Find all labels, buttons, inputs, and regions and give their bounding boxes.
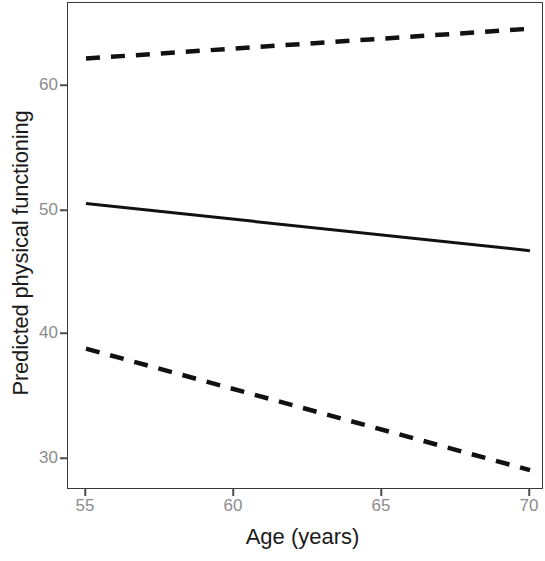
y-axis-tick-labels: 30 40 50 60 (8, 0, 58, 561)
y-tick-mark-50 (60, 209, 67, 211)
y-tick-label-50: 50 (16, 200, 58, 220)
x-tick-label-55: 55 (76, 496, 95, 516)
series-line-2 (86, 349, 530, 471)
y-tick-mark-40 (60, 332, 67, 334)
x-tick-label-65: 65 (372, 496, 391, 516)
y-tick-label-40: 40 (16, 323, 58, 343)
series-line-1 (86, 204, 530, 251)
chart-figure: Predicted physical functioning 30 40 50 … (0, 0, 545, 561)
y-tick-label-60: 60 (16, 75, 58, 95)
y-tick-label-30: 30 (16, 448, 58, 468)
x-tick-mark-70 (528, 489, 530, 496)
x-tick-label-70: 70 (520, 496, 539, 516)
series-line-0 (86, 29, 530, 59)
x-tick-label-60: 60 (224, 496, 243, 516)
y-tick-mark-60 (60, 84, 67, 86)
y-tick-mark-30 (60, 457, 67, 459)
x-tick-mark-65 (380, 489, 382, 496)
plot-lines-svg (68, 3, 543, 489)
plot-panel (67, 2, 543, 489)
series-group (86, 29, 530, 470)
x-tick-mark-55 (84, 489, 86, 496)
x-tick-mark-60 (232, 489, 234, 496)
x-axis-title: Age (years) (60, 524, 545, 550)
